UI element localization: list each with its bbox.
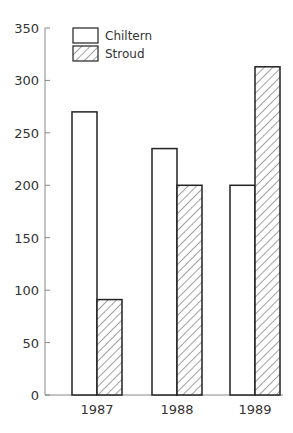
x-tick-label: 1988 <box>160 402 193 417</box>
bar-group-1989 <box>230 67 280 395</box>
legend: ChilternStroud <box>73 28 152 61</box>
y-axis: 050100150200250300350 <box>14 21 50 403</box>
x-axis: 198719881989 <box>45 395 283 417</box>
y-tick-label: 150 <box>14 231 39 246</box>
legend-label-chiltern: Chiltern <box>105 29 152 43</box>
y-tick-label: 250 <box>14 126 39 141</box>
y-tick-label: 50 <box>22 336 39 351</box>
x-tick-label: 1987 <box>80 402 113 417</box>
y-tick-label: 350 <box>14 21 39 36</box>
legend-swatch-stroud <box>73 46 98 61</box>
x-tick-label: 1989 <box>238 402 271 417</box>
y-tick-label: 300 <box>14 73 39 88</box>
y-tick-label: 100 <box>14 283 39 298</box>
bar-chiltern-1989 <box>230 185 255 395</box>
bar-chiltern-1987 <box>72 112 97 395</box>
bar-stroud-1989 <box>255 67 280 395</box>
legend-label-stroud: Stroud <box>105 47 145 61</box>
bar-group-1987 <box>72 112 122 395</box>
bar-chiltern-1988 <box>152 149 177 395</box>
y-tick-label: 200 <box>14 178 39 193</box>
bar-chart: 050100150200250300350 198719881989 Chilt… <box>0 0 293 433</box>
bar-group-1988 <box>152 149 202 395</box>
y-tick-label: 0 <box>31 388 39 403</box>
bar-stroud-1987 <box>97 300 122 395</box>
bar-stroud-1988 <box>177 185 202 395</box>
legend-swatch-chiltern <box>73 28 98 43</box>
bars <box>72 67 280 395</box>
